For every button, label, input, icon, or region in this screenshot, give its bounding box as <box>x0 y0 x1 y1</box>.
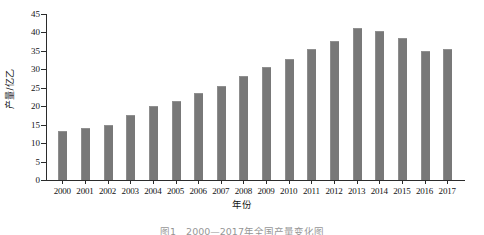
bar <box>172 101 181 180</box>
x-axis-tick <box>108 180 109 184</box>
x-axis-tick <box>62 180 63 184</box>
y-tick-label: 20 <box>2 102 40 111</box>
y-tick-label: 5 <box>2 158 40 167</box>
y-tick-label: 10 <box>2 139 40 148</box>
x-axis-tick <box>334 180 335 184</box>
y-tick-label: 45 <box>2 10 40 19</box>
bar <box>285 59 294 180</box>
bar <box>239 76 248 180</box>
bar-series <box>46 14 466 180</box>
bar <box>330 41 339 180</box>
bar <box>217 86 226 180</box>
x-axis-tick <box>85 180 86 184</box>
bar <box>81 128 90 180</box>
bar <box>104 125 113 180</box>
y-tick-label: 35 <box>2 47 40 56</box>
bar <box>194 93 203 180</box>
y-tick-label: 15 <box>2 121 40 130</box>
y-tick-label: 30 <box>2 65 40 74</box>
y-tick-label: 40 <box>2 28 40 37</box>
bar <box>375 31 384 180</box>
bar <box>149 106 158 180</box>
bar-chart-figure: 产量/亿乙 45 40 35 30 25 20 15 10 5 0 200020… <box>0 0 484 235</box>
x-axis-tick <box>198 180 199 184</box>
bar <box>353 28 362 180</box>
x-axis-tick <box>176 180 177 184</box>
x-axis-tick <box>357 180 358 184</box>
x-axis-tick <box>153 180 154 184</box>
bar <box>262 67 271 180</box>
bar <box>421 51 430 180</box>
y-tick-label: 0 <box>2 176 40 185</box>
x-tick-label: 2017 <box>430 186 464 196</box>
x-axis-tick <box>447 180 448 184</box>
y-tick-label: 25 <box>2 84 40 93</box>
x-axis-tick <box>311 180 312 184</box>
x-axis-tick <box>243 180 244 184</box>
bar <box>58 131 67 180</box>
x-axis-tick <box>425 180 426 184</box>
bar <box>307 49 316 180</box>
x-axis-tick <box>266 180 267 184</box>
x-axis-tick <box>402 180 403 184</box>
figure-caption: 图1 2000—2017年全国产量变化图 <box>0 226 484 235</box>
x-axis-tick <box>130 180 131 184</box>
bar <box>126 115 135 180</box>
x-axis-title: 年份 <box>0 199 484 210</box>
x-axis-tick <box>379 180 380 184</box>
bar <box>398 38 407 180</box>
x-axis-tick <box>289 180 290 184</box>
x-axis-tick <box>221 180 222 184</box>
bar <box>443 49 452 180</box>
